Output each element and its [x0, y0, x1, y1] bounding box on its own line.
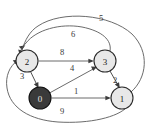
node-2-label: 2	[25, 57, 30, 67]
node-2[interactable]: 2	[16, 50, 38, 72]
node-3-label: 3	[103, 57, 108, 67]
edge-arrowhead-1	[105, 96, 111, 101]
node-1-label: 1	[120, 94, 125, 104]
node-0[interactable]: 0	[29, 87, 51, 109]
graph-canvas: 5 6 8 4 3 2	[0, 0, 152, 137]
node-1[interactable]: 1	[111, 87, 133, 109]
edge-arrowhead-8	[88, 59, 94, 64]
edge-label-4: 4	[70, 63, 75, 73]
edge-label-8: 8	[60, 47, 64, 57]
edge-2-to-0-weight-3: 3	[20, 71, 39, 88]
edge-label-9: 9	[60, 106, 64, 116]
edge-label-1: 1	[74, 86, 78, 96]
graph-svg: 5 6 8 4 3 2	[0, 0, 152, 137]
edge-label-2: 2	[113, 75, 117, 85]
edge-0-to-1-weight-1: 1	[52, 86, 112, 100]
node-0-label: 0	[38, 94, 43, 104]
edge-label-6: 6	[71, 29, 75, 39]
edge-3-to-1-weight-2: 2	[110, 71, 120, 88]
edge-3-to-2-weight-6: 6	[18, 26, 110, 55]
edge-1-to-2-weight-5: 5	[19, 13, 144, 92]
edge-2-to-3-weight-8: 8	[39, 47, 95, 63]
edge-label-3: 3	[20, 71, 24, 81]
edge-label-5: 5	[99, 13, 103, 23]
node-3[interactable]: 3	[94, 50, 116, 72]
